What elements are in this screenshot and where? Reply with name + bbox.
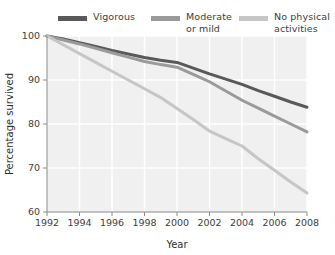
x-tick-label: 2000 <box>165 217 189 228</box>
line-chart: 60708090100 1992199419961998200020022004… <box>0 0 335 255</box>
x-tick-label: 1996 <box>100 217 124 228</box>
y-tick-label: 90 <box>28 74 40 85</box>
y-axis-ticks: 60708090100 <box>22 30 47 217</box>
y-tick-label: 70 <box>28 162 40 173</box>
x-tick-label: 1992 <box>35 217 59 228</box>
x-axis-ticks: 199219941996199820002002200420062008 <box>35 212 319 228</box>
x-tick-label: 1994 <box>67 217 91 228</box>
x-tick-label: 2008 <box>295 217 319 228</box>
y-tick-label: 100 <box>22 30 40 41</box>
x-tick-label: 1998 <box>132 217 156 228</box>
x-axis-title: Year <box>165 239 188 250</box>
x-tick-label: 2004 <box>230 217 254 228</box>
y-axis-title: Percentage survived <box>4 73 15 175</box>
x-tick-label: 2002 <box>197 217 221 228</box>
chart-svg: 60708090100 1992199419961998200020022004… <box>0 0 335 255</box>
y-tick-label: 80 <box>28 118 40 129</box>
x-tick-label: 2006 <box>262 217 286 228</box>
y-tick-label: 60 <box>28 206 40 217</box>
